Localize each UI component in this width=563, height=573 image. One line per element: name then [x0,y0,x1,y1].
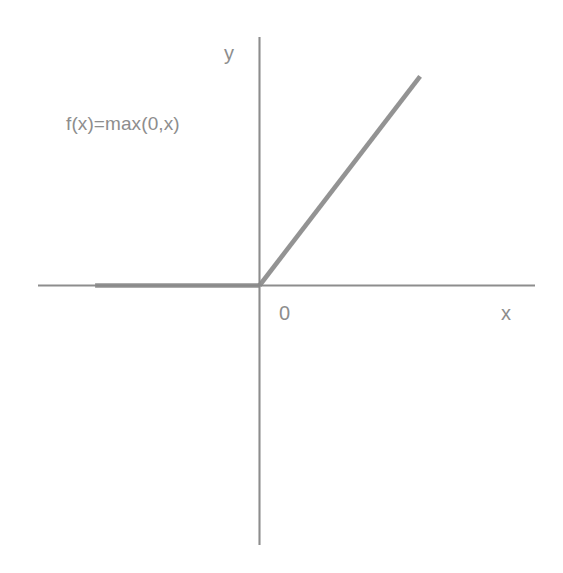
relu-function-plot: y x 0 f(x)=max(0,x) [0,0,563,573]
function-formula-label: f(x)=max(0,x) [66,114,180,133]
plot-canvas [0,0,563,573]
axis-label-y: y [224,43,234,63]
origin-label: 0 [279,303,290,323]
axis-label-x: x [501,303,511,323]
relu-rising-segment [260,76,421,285]
